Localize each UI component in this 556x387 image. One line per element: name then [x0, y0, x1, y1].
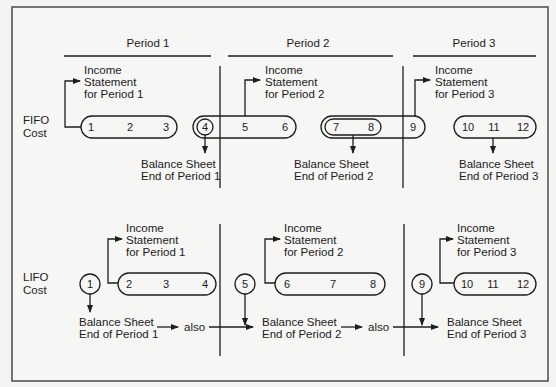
svg-text:Income: Income	[126, 222, 164, 234]
also-label-2: also	[368, 321, 389, 333]
svg-text:Balance Sheet: Balance Sheet	[79, 316, 155, 328]
svg-text:2: 2	[127, 121, 133, 133]
fifo-balance-sheet-3: Balance Sheet End of Period 3	[459, 158, 538, 182]
svg-text:End of Period 3: End of Period 3	[459, 170, 538, 182]
svg-text:Statement: Statement	[265, 76, 318, 88]
svg-text:Statement: Statement	[126, 234, 179, 246]
svg-text:End of Period 2: End of Period 2	[262, 328, 341, 340]
lifo-balance-sheet-2: Balance Sheet End of Period 2	[262, 316, 341, 340]
svg-text:End of Period 2: End of Period 2	[294, 170, 373, 182]
svg-text:6: 6	[282, 121, 288, 133]
svg-text:12: 12	[517, 278, 529, 290]
svg-text:3: 3	[163, 278, 169, 290]
svg-text:for Period 1: for Period 1	[84, 88, 143, 100]
svg-text:for Period 3: for Period 3	[457, 246, 516, 258]
also-label-1: also	[184, 321, 205, 333]
svg-text:End of Period 1: End of Period 1	[79, 328, 158, 340]
svg-text:4: 4	[202, 121, 208, 133]
fifo-lifo-diagram: Period 1 Period 2 Period 3 FIFO Cost Inc…	[0, 0, 556, 387]
svg-text:12: 12	[517, 121, 529, 133]
svg-text:Statement: Statement	[457, 234, 510, 246]
svg-text:Balance Sheet: Balance Sheet	[447, 316, 523, 328]
svg-text:9: 9	[410, 121, 416, 133]
svg-text:7: 7	[330, 278, 336, 290]
fifo-balance-sheet-1: Balance Sheet End of Period 1	[141, 158, 220, 182]
svg-text:End of Period 1: End of Period 1	[141, 170, 220, 182]
svg-text:Statement: Statement	[84, 76, 137, 88]
svg-text:6: 6	[284, 278, 290, 290]
svg-text:Balance Sheet: Balance Sheet	[294, 158, 370, 170]
period-1-header: Period 1	[127, 37, 170, 49]
svg-text:3: 3	[163, 121, 169, 133]
svg-text:for Period 1: for Period 1	[126, 246, 185, 258]
lifo-label: LIFO	[23, 271, 49, 283]
svg-text:10: 10	[461, 278, 473, 290]
fifo-label: FIFO	[23, 114, 49, 126]
svg-text:8: 8	[370, 278, 376, 290]
svg-text:Income: Income	[457, 222, 495, 234]
svg-text:7: 7	[333, 121, 339, 133]
svg-text:End of Period 3: End of Period 3	[447, 328, 526, 340]
svg-text:for Period 2: for Period 2	[284, 246, 343, 258]
fifo-balance-sheet-2: Balance Sheet End of Period 2	[294, 158, 373, 182]
svg-text:5: 5	[242, 121, 248, 133]
svg-text:Balance Sheet: Balance Sheet	[459, 158, 535, 170]
svg-text:2: 2	[126, 278, 132, 290]
svg-text:for Period 3: for Period 3	[435, 88, 494, 100]
svg-text:11: 11	[488, 121, 499, 133]
lifo-balance-sheet-1: Balance Sheet End of Period 1	[79, 316, 158, 340]
fifo-cost-label: Cost	[23, 127, 47, 139]
svg-text:for Period 2: for Period 2	[265, 88, 324, 100]
svg-text:8: 8	[368, 121, 374, 133]
svg-text:Income: Income	[265, 64, 303, 76]
svg-text:1: 1	[88, 121, 94, 133]
svg-text:Income: Income	[435, 64, 473, 76]
svg-text:11: 11	[487, 278, 498, 290]
svg-text:Statement: Statement	[435, 76, 488, 88]
svg-text:Balance Sheet: Balance Sheet	[262, 316, 338, 328]
period-2-header: Period 2	[287, 37, 330, 49]
svg-text:Income: Income	[84, 64, 122, 76]
svg-text:5: 5	[242, 278, 248, 290]
period-3-header: Period 3	[453, 37, 496, 49]
svg-text:9: 9	[419, 278, 425, 290]
svg-text:10: 10	[462, 121, 474, 133]
lifo-cost-label: Cost	[23, 284, 47, 296]
svg-text:4: 4	[202, 278, 208, 290]
svg-text:Statement: Statement	[284, 234, 337, 246]
svg-text:Income: Income	[284, 222, 322, 234]
lifo-balance-sheet-3: Balance Sheet End of Period 3	[447, 316, 526, 340]
svg-text:Balance Sheet: Balance Sheet	[141, 158, 217, 170]
svg-text:1: 1	[87, 278, 93, 290]
